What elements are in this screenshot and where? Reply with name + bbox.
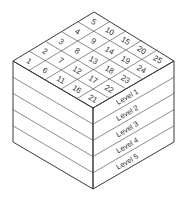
grid-line [29,21,110,70]
grid-cell-number: 25 [152,53,165,66]
grid-cell-number: 3 [57,37,66,47]
grid-cell-number: 23 [119,73,132,86]
left-face-outline [13,61,93,189]
grid-cell-number: 16 [71,83,84,96]
right-face-levels: Level 1Level 2Level 3Level 4Level 5 [93,61,174,189]
grid-cell-number: 4 [73,27,82,37]
level-label: Level 1 [115,87,140,107]
grid-line [61,40,142,89]
top-face-grid: 1234567891011121314151617181920212223242… [13,12,174,108]
grid-cell-number: 5 [89,17,98,27]
grid-cell-number: 20 [136,44,149,57]
grid-cell-number: 12 [71,64,84,77]
grid-cell-number: 7 [57,56,66,66]
grid-line [45,31,126,80]
left-face [13,61,93,189]
grid-cell-number: 13 [87,54,100,67]
grid-cell-number: 9 [89,36,98,46]
grid-cell-number: 10 [104,25,117,38]
grid-cell-number: 24 [135,63,148,76]
grid-cell-number: 8 [73,46,82,56]
grid-cell-number: 6 [41,66,50,76]
grid-cell-number: 1 [25,56,34,66]
grid-cell-number: 15 [120,35,133,48]
grid-cell-number: 22 [103,83,116,96]
grid-cell-number: 14 [103,44,116,57]
grid-cell-number: 18 [103,64,116,77]
grid-cell-number: 2 [41,46,50,56]
grid-cell-number: 11 [55,74,67,86]
grid-cell-number: 19 [119,54,132,67]
grid-cell-number: 17 [87,73,100,86]
grid-cell-number: 21 [87,93,100,106]
isometric-cube-diagram: 1234567891011121314151617181920212223242… [0,0,185,199]
